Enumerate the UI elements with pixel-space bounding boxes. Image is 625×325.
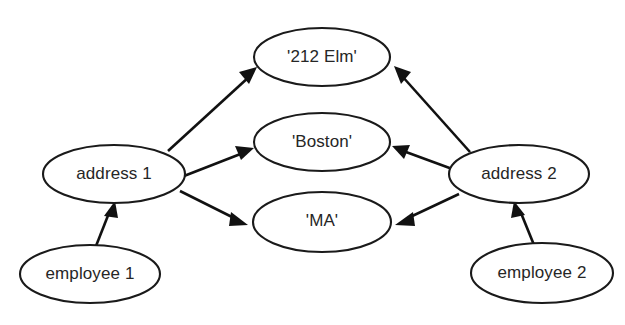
edge-address1-to-212-elm xyxy=(168,67,257,151)
node-layer: '212 Elm' 'Boston' 'MA' address 1 addres… xyxy=(20,28,613,303)
node-label: address 1 xyxy=(76,164,152,183)
edge-line xyxy=(402,76,470,152)
edge-address2-to-boston xyxy=(392,145,455,170)
node-ma[interactable]: 'MA' xyxy=(253,192,391,252)
node-label: 'MA' xyxy=(306,211,338,230)
edge-line xyxy=(184,153,243,176)
node-employee-2[interactable]: employee 2 xyxy=(471,243,613,303)
edge-employee1-to-address1 xyxy=(96,201,118,246)
object-graph-svg: '212 Elm' 'Boston' 'MA' address 1 addres… xyxy=(0,0,625,325)
node-label: employee 2 xyxy=(498,263,587,282)
edge-line xyxy=(96,213,109,246)
arrowhead-icon xyxy=(239,67,257,84)
edge-line xyxy=(521,213,534,245)
node-label: 'Boston' xyxy=(292,132,352,151)
edge-line xyxy=(406,152,455,170)
node-212-elm[interactable]: '212 Elm' xyxy=(254,28,390,86)
edge-line xyxy=(180,191,236,219)
node-label: employee 1 xyxy=(46,264,135,283)
edge-employee2-to-address2 xyxy=(511,201,534,245)
node-label: address 2 xyxy=(481,164,557,183)
edge-line xyxy=(408,194,459,218)
node-label: '212 Elm' xyxy=(287,47,357,66)
diagram-canvas: '212 Elm' 'Boston' 'MA' address 1 addres… xyxy=(0,0,625,325)
node-address-1[interactable]: address 1 xyxy=(43,145,185,203)
edge-line xyxy=(168,76,250,151)
node-boston[interactable]: 'Boston' xyxy=(254,113,390,171)
node-address-2[interactable]: address 2 xyxy=(449,145,589,203)
edge-address1-to-ma xyxy=(180,191,248,226)
arrowhead-icon xyxy=(395,212,415,226)
edge-address2-to-212-elm xyxy=(394,66,470,152)
arrowhead-icon xyxy=(229,212,248,226)
edge-address1-to-boston xyxy=(184,146,254,176)
arrowhead-icon xyxy=(235,146,254,160)
edge-address2-to-ma xyxy=(395,194,459,226)
node-employee-1[interactable]: employee 1 xyxy=(20,245,160,303)
